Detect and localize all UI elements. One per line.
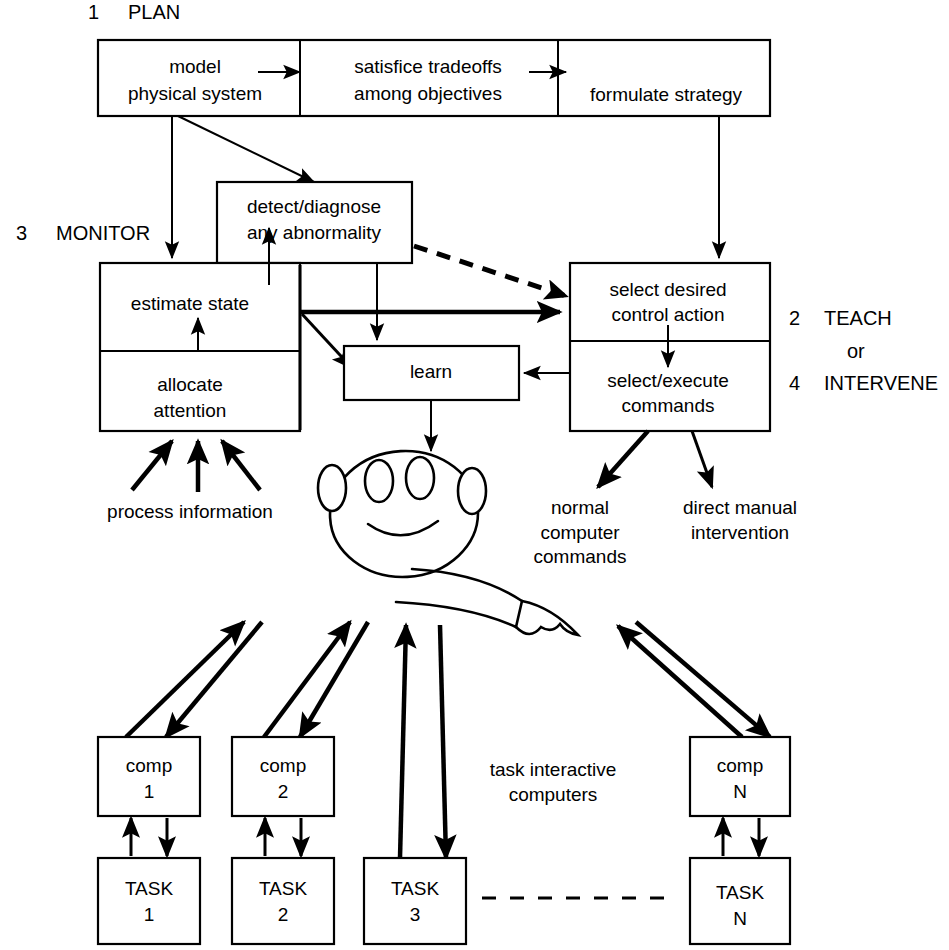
comp-2-line1: comp xyxy=(260,755,306,776)
arrow-plan-to-detect-diagnose xyxy=(178,116,314,182)
label-monitor-text: MONITOR xyxy=(56,222,150,244)
task-interactive-line2: computers xyxy=(509,784,598,805)
tasks-group: TASK 1 TASK 2 TASK 3 TASK N xyxy=(98,858,790,944)
process-information-label: process information xyxy=(107,501,273,522)
label-plan-text: PLAN xyxy=(128,1,180,23)
task-1-box xyxy=(98,858,200,944)
comp-N-line1: comp xyxy=(717,755,763,776)
operator-figure-group xyxy=(318,447,578,635)
arrow-process-info-right xyxy=(222,441,260,490)
task-1-line1: TASK xyxy=(125,878,174,899)
allocate-line1: allocate xyxy=(157,374,223,395)
label-monitor-number: 3 xyxy=(16,222,27,244)
plan-row-group: model physical system satisfice tradeoff… xyxy=(98,40,770,116)
arrow-task3-down xyxy=(440,625,446,858)
task-3-box xyxy=(364,858,466,944)
task-1-line2: 1 xyxy=(144,904,155,925)
comp-1-line2: 1 xyxy=(144,781,155,802)
label-plan-number: 1 xyxy=(88,1,99,23)
comp-N-line2: N xyxy=(733,781,747,802)
normal-commands-line3: commands xyxy=(534,546,627,567)
learn-label: learn xyxy=(410,361,452,382)
operator-left-eye-icon xyxy=(365,460,393,502)
operator-right-eye-icon xyxy=(406,457,434,499)
arrow-process-info-left xyxy=(132,441,172,490)
task-2-line1: TASK xyxy=(259,878,308,899)
learn-group: learn xyxy=(344,346,519,400)
arrow-compN-up xyxy=(618,626,742,737)
arrow-comp2-down xyxy=(300,622,368,737)
teach-intervene-group: select desired control action select/exe… xyxy=(570,263,770,431)
monitor-group: estimate state allocate attention xyxy=(100,263,300,431)
arrow-task3-up xyxy=(400,625,406,858)
operator-arm-bottom-edge xyxy=(396,602,516,627)
arrow-comp1-up xyxy=(126,622,244,737)
estimate-state-label: estimate state xyxy=(131,293,249,314)
select-control-line1: select desired xyxy=(609,279,726,300)
plan-cell1-line2: physical system xyxy=(128,83,262,104)
supervisory-control-diagram: model physical system satisfice tradeoff… xyxy=(0,0,949,950)
task-2-box xyxy=(232,858,334,944)
task-2-line2: 2 xyxy=(278,904,289,925)
operator-head-icon xyxy=(327,447,481,581)
arrow-direct-manual-intervention xyxy=(692,431,712,487)
operator-pointing-hand-icon xyxy=(516,601,578,635)
operator-left-ear-icon xyxy=(318,465,346,511)
label-or-text: or xyxy=(847,340,865,362)
task-3-line1: TASK xyxy=(391,878,440,899)
comp-1-box xyxy=(98,737,200,816)
task-interactive-line1: task interactive xyxy=(490,759,617,780)
process-information-group: process information xyxy=(107,441,273,522)
arrow-comp1-down xyxy=(166,622,262,737)
operator-to-computers-arrows xyxy=(126,622,770,858)
direct-manual-line1: direct manual xyxy=(683,497,797,518)
task-N-line2: N xyxy=(733,908,747,929)
plan-cell1-line1: model xyxy=(169,56,221,77)
detect-line2: any abnormality xyxy=(247,222,382,243)
plan-cell2-line2: among objectives xyxy=(354,83,502,104)
arrow-compN-down xyxy=(636,622,770,737)
direct-manual-line2: intervention xyxy=(691,522,789,543)
detect-diagnose-group: detect/diagnose any abnormality xyxy=(217,182,412,263)
comp-2-box xyxy=(232,737,334,816)
plan-cell2-line1: satisfice tradeoffs xyxy=(354,56,502,77)
comp-N-box xyxy=(690,737,790,816)
comp-1-line1: comp xyxy=(126,755,172,776)
arrow-comp2-up xyxy=(264,622,350,737)
arrow-normal-computer-commands xyxy=(598,431,648,487)
label-intervene-number: 4 xyxy=(789,372,800,394)
select-execute-line2: commands xyxy=(622,395,715,416)
normal-commands-line2: computer xyxy=(540,522,620,543)
select-control-line2: control action xyxy=(611,304,724,325)
plan-cell3-line1: formulate strategy xyxy=(590,84,743,105)
diagram-canvas: model physical system satisfice tradeoff… xyxy=(0,0,949,950)
comp-2-line2: 2 xyxy=(278,781,289,802)
label-teach-number: 2 xyxy=(789,307,800,329)
allocate-line2: attention xyxy=(154,400,227,421)
dashed-arrow-detect-to-select-control xyxy=(414,246,566,296)
operator-cuff xyxy=(516,601,522,627)
normal-commands-line1: normal xyxy=(551,497,609,518)
select-execute-line1: select/execute xyxy=(607,370,728,391)
operator-right-ear-icon xyxy=(458,468,486,514)
label-intervene-text: INTERVENE xyxy=(824,372,938,394)
task-3-line2: 3 xyxy=(410,904,421,925)
task-N-line1: TASK xyxy=(716,882,765,903)
detect-line1: detect/diagnose xyxy=(247,196,381,217)
label-teach-text: TEACH xyxy=(824,307,892,329)
